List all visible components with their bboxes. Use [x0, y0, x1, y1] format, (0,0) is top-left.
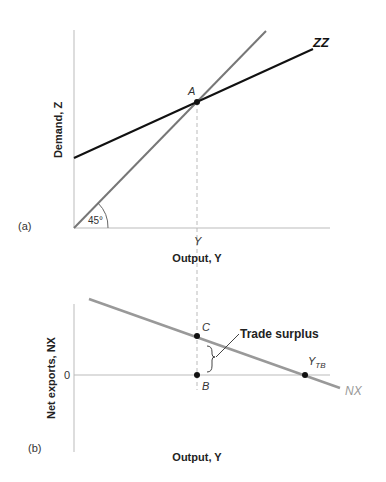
panel-a-ylabel: Demand, Z: [52, 102, 64, 159]
ytb-label: YTB: [308, 355, 326, 370]
point-b-label: B: [202, 380, 209, 392]
zz-label: ZZ: [312, 35, 330, 50]
nx-label: NX: [345, 384, 363, 398]
point-c-label: C: [202, 321, 210, 333]
y-tick: Y: [194, 235, 202, 247]
zero-tick: 0: [64, 369, 70, 381]
panel-b-label: (b): [28, 442, 41, 454]
zz-line: [74, 49, 313, 158]
trade-surplus-label: Trade surplus: [240, 327, 319, 341]
point-a: [194, 99, 200, 105]
point-c: [194, 333, 200, 339]
angle-label: 45°: [88, 215, 103, 226]
figure: A ZZ 45° Y (a) Output, Y Demand, Z C B T…: [0, 0, 386, 482]
panel-a-label: (a): [18, 220, 31, 232]
brace: [207, 346, 215, 372]
panel-b-ylabel: Net exports, NX: [45, 336, 57, 419]
45-degree-line: [74, 31, 266, 228]
point-ytb: [302, 372, 308, 378]
point-b: [194, 372, 200, 378]
panel-b-xlabel: Output, Y: [172, 451, 222, 463]
point-a-label: A: [187, 85, 195, 97]
panel-a-xlabel: Output, Y: [172, 252, 222, 264]
